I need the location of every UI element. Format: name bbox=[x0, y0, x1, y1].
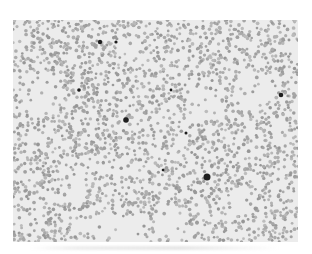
red-blood-cell bbox=[84, 117, 87, 120]
red-blood-cell bbox=[225, 46, 229, 50]
red-blood-cell bbox=[52, 237, 55, 240]
red-blood-cell bbox=[120, 199, 123, 202]
red-blood-cell bbox=[110, 182, 113, 185]
red-blood-cell bbox=[17, 147, 20, 150]
red-blood-cell bbox=[52, 69, 55, 72]
red-blood-cell bbox=[283, 134, 287, 138]
red-blood-cell bbox=[288, 117, 292, 121]
red-blood-cell bbox=[140, 192, 144, 196]
red-blood-cell bbox=[232, 142, 235, 145]
red-blood-cell bbox=[73, 105, 76, 108]
red-blood-cell bbox=[162, 142, 166, 146]
red-blood-cell bbox=[278, 104, 281, 107]
red-blood-cell bbox=[137, 159, 140, 162]
red-blood-cell bbox=[135, 68, 138, 71]
red-blood-cell bbox=[64, 31, 67, 34]
red-blood-cell bbox=[47, 137, 50, 140]
red-blood-cell bbox=[127, 21, 130, 24]
red-blood-cell bbox=[244, 172, 247, 175]
red-blood-cell bbox=[89, 117, 92, 120]
red-blood-cell bbox=[186, 173, 189, 176]
red-blood-cell bbox=[69, 47, 72, 50]
red-blood-cell bbox=[281, 113, 285, 117]
red-blood-cell bbox=[226, 87, 229, 90]
red-blood-cell bbox=[274, 103, 277, 106]
red-blood-cell bbox=[166, 24, 169, 27]
red-blood-cell bbox=[109, 54, 113, 58]
red-blood-cell bbox=[38, 41, 41, 44]
red-blood-cell bbox=[224, 149, 227, 152]
red-blood-cell bbox=[175, 203, 179, 207]
red-blood-cell bbox=[145, 160, 148, 163]
red-blood-cell bbox=[269, 71, 272, 74]
red-blood-cell bbox=[276, 59, 280, 63]
red-blood-cell bbox=[89, 78, 92, 81]
red-blood-cell bbox=[143, 211, 146, 214]
red-blood-cell bbox=[246, 167, 250, 171]
red-blood-cell bbox=[253, 236, 257, 240]
red-blood-cell bbox=[120, 176, 124, 180]
red-blood-cell bbox=[292, 190, 295, 193]
red-blood-cell bbox=[180, 239, 183, 242]
red-blood-cell bbox=[178, 205, 181, 208]
red-blood-cell bbox=[94, 177, 97, 180]
red-blood-cell bbox=[129, 66, 132, 69]
red-blood-cell bbox=[207, 195, 211, 199]
red-blood-cell bbox=[188, 74, 191, 77]
red-blood-cell bbox=[50, 120, 53, 123]
red-blood-cell bbox=[111, 207, 114, 210]
red-blood-cell bbox=[137, 233, 140, 236]
red-blood-cell bbox=[166, 74, 169, 77]
red-blood-cell bbox=[104, 141, 107, 144]
red-blood-cell bbox=[83, 69, 86, 72]
red-blood-cell bbox=[46, 81, 49, 84]
red-blood-cell bbox=[150, 128, 153, 131]
red-blood-cell bbox=[237, 165, 240, 168]
red-blood-cell bbox=[74, 137, 78, 141]
red-blood-cell bbox=[214, 95, 217, 98]
red-blood-cell bbox=[292, 143, 295, 146]
red-blood-cell bbox=[104, 74, 108, 78]
red-blood-cell bbox=[116, 28, 119, 31]
red-blood-cell bbox=[257, 45, 260, 48]
red-blood-cell bbox=[136, 80, 139, 83]
red-blood-cell bbox=[85, 94, 88, 97]
page bbox=[0, 0, 312, 254]
red-blood-cell bbox=[250, 192, 253, 195]
red-blood-cell bbox=[218, 123, 222, 127]
red-blood-cell bbox=[83, 72, 86, 75]
red-blood-cell bbox=[99, 199, 102, 202]
red-blood-cell bbox=[36, 31, 39, 34]
red-blood-cell bbox=[263, 154, 266, 157]
red-blood-cell bbox=[115, 37, 118, 40]
red-blood-cell bbox=[75, 49, 79, 53]
red-blood-cell bbox=[255, 76, 259, 80]
red-blood-cell bbox=[200, 135, 203, 138]
red-blood-cell bbox=[210, 214, 213, 217]
red-blood-cell bbox=[230, 131, 234, 135]
red-blood-cell bbox=[66, 65, 69, 68]
red-blood-cell bbox=[249, 202, 253, 206]
red-blood-cell bbox=[95, 128, 98, 131]
red-blood-cell bbox=[269, 124, 272, 127]
red-blood-cell bbox=[143, 74, 146, 77]
red-blood-cell bbox=[111, 166, 114, 169]
red-blood-cell bbox=[189, 214, 192, 217]
red-blood-cell bbox=[41, 182, 44, 185]
red-blood-cell bbox=[204, 138, 207, 141]
red-blood-cell bbox=[257, 228, 260, 231]
red-blood-cell bbox=[214, 201, 217, 204]
red-blood-cell bbox=[187, 185, 190, 188]
red-blood-cell bbox=[125, 131, 128, 134]
red-blood-cell bbox=[153, 57, 156, 60]
red-blood-cell bbox=[275, 114, 279, 118]
red-blood-cell bbox=[194, 203, 198, 207]
red-blood-cell bbox=[215, 147, 218, 150]
red-blood-cell bbox=[133, 22, 137, 26]
red-blood-cell bbox=[98, 187, 101, 190]
red-blood-cell bbox=[210, 32, 213, 35]
red-blood-cell bbox=[224, 227, 227, 230]
red-blood-cell bbox=[197, 128, 201, 132]
red-blood-cell bbox=[235, 74, 238, 77]
red-blood-cell bbox=[238, 178, 241, 181]
